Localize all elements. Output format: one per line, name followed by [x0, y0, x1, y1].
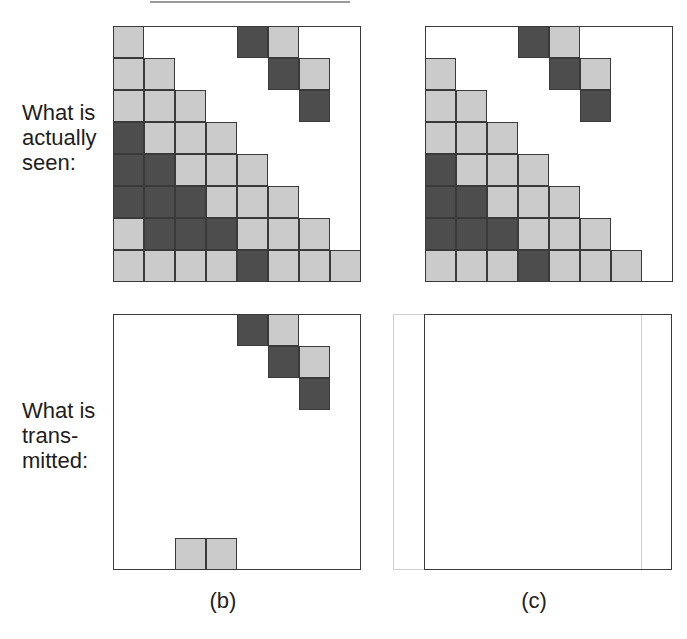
label-line: actually: [22, 125, 114, 150]
light-block: [113, 218, 144, 250]
label-line: trans-: [22, 423, 114, 448]
label-line: mitted:: [22, 448, 114, 473]
light-block: [206, 154, 237, 186]
light-block: [175, 122, 206, 154]
light-block: [113, 58, 144, 90]
light-block: [206, 122, 237, 154]
light-block: [330, 250, 361, 282]
light-block: [456, 154, 487, 186]
light-block: [580, 58, 611, 90]
dark-block: [175, 218, 206, 250]
cropped-title-remnant: [150, 1, 350, 3]
light-block: [487, 122, 518, 154]
dark-block: [549, 58, 580, 90]
light-block: [611, 250, 642, 282]
light-block: [175, 250, 206, 282]
light-block: [268, 26, 299, 58]
light-block: [299, 58, 330, 90]
light-block: [299, 250, 330, 282]
panel-transmitted-c: [424, 314, 672, 570]
dark-block: [144, 186, 175, 218]
light-block: [456, 250, 487, 282]
light-block: [456, 90, 487, 122]
light-block: [268, 218, 299, 250]
light-block: [113, 26, 144, 58]
light-block: [580, 218, 611, 250]
light-block: [518, 218, 549, 250]
caption-c: (c): [504, 588, 564, 614]
light-block: [237, 154, 268, 186]
dark-block: [237, 314, 268, 346]
dark-block: [268, 58, 299, 90]
light-block: [113, 250, 144, 282]
light-block: [268, 314, 299, 346]
light-block: [487, 186, 518, 218]
label-actually-seen: What is actually seen:: [22, 100, 114, 175]
dark-block: [268, 346, 299, 378]
light-block: [144, 90, 175, 122]
light-block: [580, 250, 611, 282]
light-block: [113, 90, 144, 122]
light-block: [518, 186, 549, 218]
light-block: [487, 154, 518, 186]
light-block: [268, 186, 299, 218]
light-block: [425, 122, 456, 154]
dark-block: [144, 154, 175, 186]
light-block: [487, 250, 518, 282]
dark-block: [237, 26, 268, 58]
dark-block: [518, 250, 549, 282]
light-block: [425, 90, 456, 122]
light-block: [549, 250, 580, 282]
dark-block: [425, 154, 456, 186]
light-block: [518, 154, 549, 186]
light-block: [175, 538, 206, 570]
light-block: [206, 186, 237, 218]
dark-block: [299, 378, 330, 410]
light-block: [144, 250, 175, 282]
dark-block: [113, 122, 144, 154]
dark-block: [425, 186, 456, 218]
light-block: [299, 218, 330, 250]
light-block: [299, 346, 330, 378]
light-block: [144, 58, 175, 90]
light-block: [206, 250, 237, 282]
caption-b: (b): [193, 588, 253, 614]
dark-block: [580, 90, 611, 122]
dark-block: [113, 186, 144, 218]
dark-block: [456, 186, 487, 218]
light-block: [237, 218, 268, 250]
dark-block: [144, 218, 175, 250]
light-block: [549, 26, 580, 58]
dark-block: [518, 26, 549, 58]
light-block: [175, 154, 206, 186]
dark-block: [487, 218, 518, 250]
dark-block: [175, 186, 206, 218]
dark-block: [299, 90, 330, 122]
label-line: What is: [22, 100, 114, 125]
light-block: [206, 538, 237, 570]
light-block: [549, 186, 580, 218]
dark-block: [113, 154, 144, 186]
light-block: [144, 122, 175, 154]
dark-block: [425, 218, 456, 250]
dark-block: [456, 218, 487, 250]
light-block: [549, 218, 580, 250]
light-block: [268, 250, 299, 282]
label-line: What is: [22, 398, 114, 423]
label-line: seen:: [22, 150, 114, 175]
dark-block: [237, 250, 268, 282]
light-block: [425, 58, 456, 90]
light-block: [175, 90, 206, 122]
light-block: [456, 122, 487, 154]
light-block: [237, 186, 268, 218]
label-transmitted: What is trans- mitted:: [22, 398, 114, 473]
dark-block: [206, 218, 237, 250]
light-block: [425, 250, 456, 282]
